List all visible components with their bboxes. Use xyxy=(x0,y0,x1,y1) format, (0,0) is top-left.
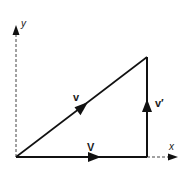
vector-v-label: v xyxy=(73,91,80,103)
vector-diagram: y x V v′ v xyxy=(0,0,190,172)
vector-v-prime-label: v′ xyxy=(155,97,164,109)
vector-v-prime-arrow-icon xyxy=(142,99,152,112)
y-axis-label: y xyxy=(20,18,27,29)
x-axis-label: x xyxy=(168,141,175,152)
vector-V-arrow-icon xyxy=(88,152,101,162)
diagram-canvas: y x V v′ v xyxy=(0,0,190,172)
x-axis-arrow-icon xyxy=(168,154,178,161)
vector-V-label: V xyxy=(87,141,95,153)
vector-v-arrow-icon xyxy=(75,102,89,115)
y-axis-arrow-icon xyxy=(13,25,20,35)
